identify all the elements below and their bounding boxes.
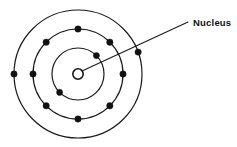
electron-dot — [43, 103, 49, 109]
electron-dot — [75, 116, 81, 122]
electron-dot — [43, 39, 49, 45]
nucleus-label: Nucleus — [193, 17, 231, 28]
electron-dot — [57, 89, 63, 95]
atom-diagram: Nucleus — [0, 0, 237, 147]
electron-dot — [11, 71, 17, 77]
nucleus-leader-line — [82, 22, 188, 71]
electron-dot — [107, 39, 113, 45]
atom-diagram-canvas: Nucleus — [0, 0, 237, 147]
electron-dot — [120, 71, 126, 77]
electron-dot — [135, 49, 141, 55]
nucleus-icon — [73, 69, 83, 79]
electron-dot — [107, 103, 113, 109]
electron-dot — [75, 26, 81, 32]
electron-dot — [30, 71, 36, 77]
electron-dot — [93, 53, 99, 59]
